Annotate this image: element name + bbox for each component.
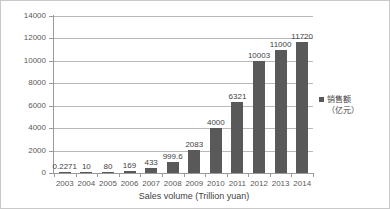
bar-chart: 02000400060008000100001200014000 0.22711… xyxy=(0,0,390,209)
legend: 销售额 （亿元） xyxy=(319,94,389,116)
bar xyxy=(275,50,287,173)
bar-value-label: 10 xyxy=(82,162,91,171)
bar-value-label: 433 xyxy=(144,158,157,167)
bar xyxy=(296,42,308,173)
x-axis-tick xyxy=(140,173,141,177)
bar xyxy=(210,128,222,173)
y-axis-label: 2000 xyxy=(1,147,46,155)
bar-value-label: 11000 xyxy=(270,40,292,49)
plot-area: 0.22711080169433999.62083400063211000311… xyxy=(54,16,313,173)
bar-value-label: 10003 xyxy=(248,51,270,60)
y-axis-label: 4000 xyxy=(1,124,46,132)
bar-column: 11000 xyxy=(270,16,292,173)
x-axis-tick xyxy=(76,173,77,177)
bar-value-label: 80 xyxy=(103,162,112,171)
legend-series-name: 销售额 xyxy=(327,94,351,105)
x-axis-tick xyxy=(97,173,98,177)
bar-column: 10 xyxy=(76,16,98,173)
bar-column: 6321 xyxy=(227,16,249,173)
bar-value-label: 999.6 xyxy=(163,152,183,161)
x-axis-title: Sales volume (Trillion yuan) xyxy=(54,191,334,201)
bar xyxy=(167,162,179,173)
bar xyxy=(188,150,200,173)
x-axis-tick xyxy=(184,173,185,177)
bar-value-label: 2083 xyxy=(185,140,203,149)
bar-column: 2083 xyxy=(184,16,206,173)
bar xyxy=(231,102,243,173)
bar-value-label: 11720 xyxy=(291,32,313,41)
x-axis-tick xyxy=(119,173,120,177)
x-axis-labels: 2003200420052006200720082009201020112012… xyxy=(54,179,313,191)
x-axis-ticks xyxy=(54,173,313,178)
y-axis-label: 6000 xyxy=(1,102,46,110)
y-axis-label: 14000 xyxy=(1,12,46,20)
bar-column: 4000 xyxy=(205,16,227,173)
bar-value-label: 4000 xyxy=(207,118,225,127)
bar-column: 999.6 xyxy=(162,16,184,173)
bar xyxy=(253,61,265,173)
x-axis-tick xyxy=(248,173,249,177)
y-axis-label: 12000 xyxy=(1,34,46,42)
bar-column: 10003 xyxy=(248,16,270,173)
x-axis-tick xyxy=(54,173,55,177)
x-axis-tick xyxy=(270,173,271,177)
x-axis-tick xyxy=(227,173,228,177)
y-axis-label: 10000 xyxy=(1,57,46,65)
bar-value-label: 6321 xyxy=(229,92,247,101)
bar-column: 433 xyxy=(140,16,162,173)
bar-column: 80 xyxy=(97,16,119,173)
x-axis-tick xyxy=(291,173,292,177)
bar-value-label: 0.2271 xyxy=(53,162,77,171)
y-axis-label: 8000 xyxy=(1,79,46,87)
x-axis-tick xyxy=(313,173,314,177)
bar-value-label: 169 xyxy=(123,161,136,170)
x-axis-tick xyxy=(162,173,163,177)
bar-column: 169 xyxy=(119,16,141,173)
x-axis-tick xyxy=(205,173,206,177)
bar-column: 11720 xyxy=(291,16,313,173)
y-axis-label: 0 xyxy=(1,169,46,177)
legend-swatch-icon xyxy=(319,97,324,102)
x-axis-label: 2014 xyxy=(288,179,316,189)
bar-column: 0.2271 xyxy=(54,16,76,173)
legend-series-unit: （亿元） xyxy=(327,105,389,116)
